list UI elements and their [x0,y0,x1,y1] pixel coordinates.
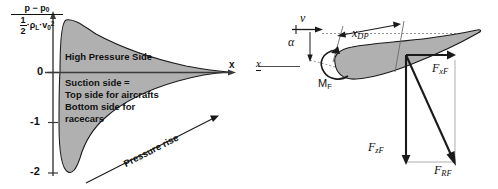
force-x-arrowhead [447,51,456,60]
angle-of-attack-label: α [288,36,294,48]
figure-root: p − p0 12·ρL·v02 0 -1 -2 x High Pressure… [0,0,498,189]
moment-subscript: F [327,82,332,91]
force-resultant-subscript: RF [441,169,451,178]
moment-symbol: M [318,77,327,89]
alpha-vertical-arrowhead [307,55,312,63]
right-diagram-graphics [0,0,498,189]
xdp-arrowhead-right [393,22,401,29]
pressure-point-distance-label: xDP [352,27,369,42]
force-x-label: FxF [432,62,448,77]
force-z-arrowhead [402,155,411,165]
force-z-label: FzF [368,141,384,156]
reference-x-axis-label: x [256,58,261,71]
force-x-subscript: xF [439,67,448,76]
velocity-label: v [300,12,305,24]
moment-label: MF [318,78,332,91]
force-resultant-label: FRF [434,164,452,179]
velocity-arrowhead [315,27,323,33]
force-z-subscript: zF [375,146,383,155]
xdp-subscript: DP [357,32,368,41]
